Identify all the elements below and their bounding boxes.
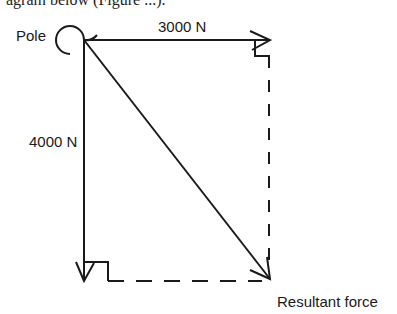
force-diagram: Pole 3000 N 4000 N Resultant force [0,0,397,314]
resultant-force-label: Resultant force [277,293,378,310]
right-angle-marker-bottom [84,262,108,281]
pole-label: Pole [16,27,46,44]
resultant-force-arrow [84,40,270,279]
vertical-force-label: 4000 N [29,133,77,150]
horizontal-force-label: 3000 N [158,18,206,35]
vertical-force-arrow [76,40,94,281]
